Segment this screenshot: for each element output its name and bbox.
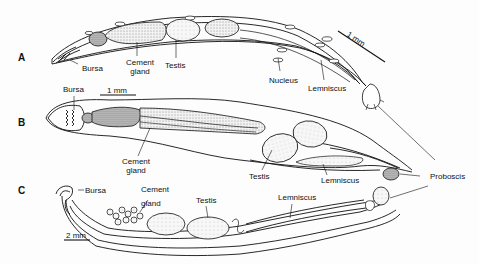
testis-a-2 — [205, 19, 239, 37]
proboscis-c — [373, 187, 389, 205]
label-b-cement-gland: Cement gland — [120, 157, 152, 175]
label-c-cement-gland: Cement gland — [141, 183, 169, 211]
label-a-cement-gland: Cement gland — [125, 58, 155, 76]
testis-a-1 — [166, 19, 200, 41]
testis-c-1 — [147, 213, 185, 235]
worm-c — [56, 186, 400, 256]
scale-label-c: 2 mm — [66, 231, 86, 240]
label-b-bursa: Bursa — [63, 85, 84, 94]
label-a-nucleus: Nucleus — [269, 76, 298, 85]
proboscis-b — [383, 168, 399, 180]
testis-c-2 — [187, 217, 229, 239]
label-c-bursa: Bursa — [85, 186, 106, 195]
panel-label-c: C — [18, 185, 25, 196]
proboscis-leaders — [378, 106, 435, 198]
anatomy-drawing — [0, 0, 479, 264]
acanthocephalan-male-anatomy-figure: A B C Bursa Cement gland Testis Nucleus … — [0, 0, 479, 264]
label-a-lemniscus: Lemniscus — [308, 84, 346, 93]
label-c-testis: Testis — [196, 196, 216, 205]
cement-gland-a — [105, 22, 166, 44]
proboscis-a — [362, 84, 380, 109]
label-c-lemniscus: Lemniscus — [278, 193, 316, 202]
label-a-bursa: Bursa — [82, 64, 103, 73]
panel-label-a: A — [18, 52, 25, 63]
label-b-testis: Testis — [249, 172, 269, 181]
cement-gland-b-1 — [92, 107, 141, 127]
label-a-testis: Testis — [165, 61, 185, 70]
panel-label-b: B — [18, 117, 25, 128]
cement-gland-b-2 — [140, 108, 265, 134]
label-b-lemniscus: Lemniscus — [321, 176, 359, 185]
cement-gland-c — [107, 207, 143, 225]
label-proboscis: Proboscis — [430, 172, 465, 181]
scale-label-b: 1 mm — [107, 86, 127, 95]
lemniscus-b — [296, 156, 363, 166]
